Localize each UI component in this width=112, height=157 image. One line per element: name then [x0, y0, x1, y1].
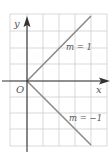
- slope-label-negative: m = −1: [69, 113, 102, 123]
- y-axis-label: y: [13, 18, 20, 29]
- x-axis-label: x: [96, 84, 102, 95]
- origin-label: O: [16, 84, 24, 95]
- coordinate-diagram: y x O m = 1 m = −1: [0, 0, 112, 157]
- grid: [10, 14, 107, 146]
- slope-label-positive: m = 1: [66, 42, 92, 52]
